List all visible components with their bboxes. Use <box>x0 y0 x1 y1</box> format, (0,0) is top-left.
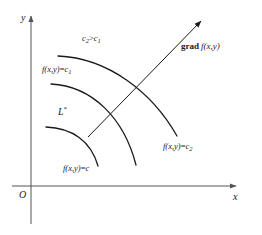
level-c-value: c <box>86 163 90 173</box>
level-set-star: * <box>64 105 68 113</box>
gradient-vector-arrow <box>88 21 201 137</box>
gradient-operator: grad <box>181 41 199 51</box>
diagram-canvas <box>0 0 262 235</box>
inequality-c2-subscript: 2 <box>86 37 89 44</box>
level-curve-c <box>46 127 98 166</box>
x-axis-label: x <box>233 192 237 202</box>
level-curve-c-label: f(x,y)=c <box>63 164 89 173</box>
level-curve-c1 <box>51 84 136 165</box>
y-axis-label: y <box>21 13 25 23</box>
inequality-label: c2>c1 <box>82 34 101 43</box>
level-c-function: f(x,y) <box>63 163 81 173</box>
level-set-marker-label: L* <box>58 106 67 117</box>
level-c2-subscript: 2 <box>189 145 192 152</box>
level-c1-subscript: 1 <box>68 68 71 75</box>
inequality-c1-subscript: 1 <box>98 37 101 44</box>
origin-label: O <box>19 190 26 200</box>
gradient-function: f(x,y) <box>201 41 220 51</box>
level-c1-function: f(x,y) <box>42 64 60 74</box>
level-curve-c1-label: f(x,y)=c1 <box>42 65 72 74</box>
level-curve-c2-label: f(x,y)=c2 <box>163 142 193 151</box>
figure-container: y x O c2>c1 f(x,y)=c1 L* f(x,y)=c f(x,y)… <box>0 0 262 235</box>
gradient-label: gradf(x,y) <box>181 42 220 51</box>
level-c2-function: f(x,y) <box>163 141 181 151</box>
